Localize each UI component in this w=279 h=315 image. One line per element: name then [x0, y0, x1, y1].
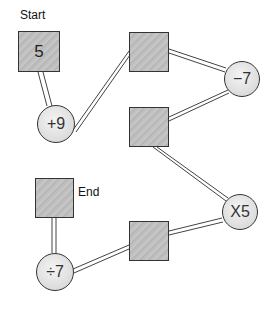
start-label: Start: [20, 8, 45, 22]
subtract-7-value: −7: [233, 70, 251, 88]
end-box[interactable]: [35, 178, 74, 218]
subtract-7-circle: −7: [224, 61, 260, 97]
multiply-5-circle: X5: [222, 194, 258, 230]
answer-box-1[interactable]: [129, 32, 169, 72]
end-label: End: [78, 185, 99, 199]
start-box: 5: [18, 31, 60, 72]
add-9-value: +9: [47, 115, 65, 133]
start-box-value: 5: [34, 42, 43, 62]
add-9-circle: +9: [37, 105, 75, 143]
answer-box-3[interactable]: [129, 221, 169, 261]
answer-box-2[interactable]: [129, 107, 169, 147]
multiply-5-value: X5: [230, 203, 250, 221]
divide-7-value: ÷7: [46, 263, 64, 281]
divide-7-circle: ÷7: [36, 253, 74, 291]
